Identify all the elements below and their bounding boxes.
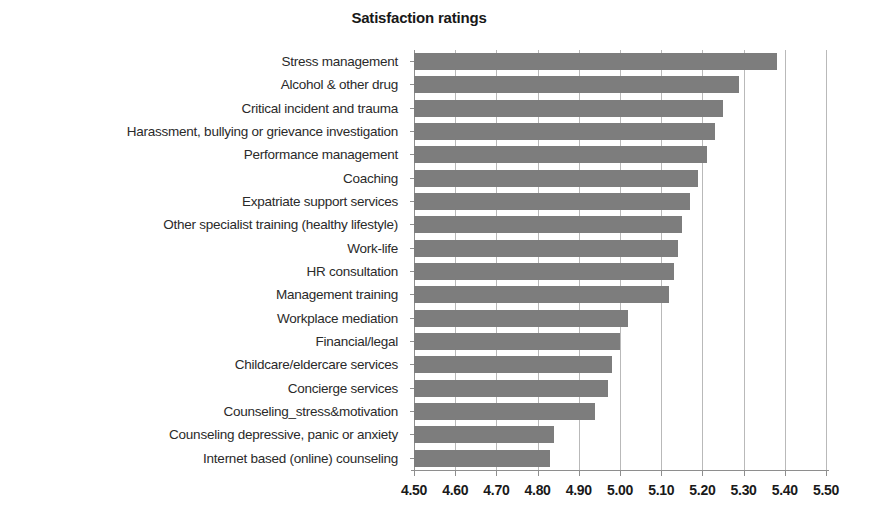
category-label: Financial/legal <box>0 330 398 353</box>
bar <box>414 263 674 280</box>
category-axis-labels: Stress managementAlcohol & other drugCri… <box>0 50 406 470</box>
bar <box>414 286 669 303</box>
bar-row <box>414 237 826 260</box>
category-label: Childcare/eldercare services <box>0 353 398 376</box>
category-label: Performance management <box>0 143 398 166</box>
bar <box>414 146 707 163</box>
axis-tick <box>826 470 827 476</box>
value-tick-label: 5.20 <box>689 482 715 498</box>
axis-tick <box>414 470 415 476</box>
bar <box>414 380 608 397</box>
bar <box>414 240 678 257</box>
category-label: Stress management <box>0 50 398 73</box>
value-tick-label: 5.10 <box>648 482 674 498</box>
bar-row <box>414 330 826 353</box>
category-label: HR consultation <box>0 260 398 283</box>
bar <box>414 100 723 117</box>
axis-tick <box>744 470 745 476</box>
value-tick-label: 4.80 <box>525 482 551 498</box>
value-tick-label: 4.50 <box>401 482 427 498</box>
bar-row <box>414 73 826 96</box>
bar-row <box>414 120 826 143</box>
axis-tick <box>620 470 621 476</box>
axis-tick <box>785 470 786 476</box>
category-label: Concierge services <box>0 377 398 400</box>
bar-row <box>414 213 826 236</box>
value-tick-label: 4.70 <box>483 482 509 498</box>
bar <box>414 333 620 350</box>
category-label: Alcohol & other drug <box>0 73 398 96</box>
bar <box>414 53 777 70</box>
bar-row <box>414 190 826 213</box>
satisfaction-ratings-chart: Satisfaction ratings Stress managementAl… <box>0 0 878 526</box>
bar-row <box>414 167 826 190</box>
axis-tick <box>538 470 539 476</box>
category-label: Expatriate support services <box>0 190 398 213</box>
category-label: Internet based (online) counseling <box>0 447 398 470</box>
bar <box>414 356 612 373</box>
bar-row <box>414 377 826 400</box>
category-label: Critical incident and trauma <box>0 97 398 120</box>
chart-title-text: Satisfaction ratings <box>351 9 486 26</box>
value-tick-label: 5.00 <box>607 482 633 498</box>
bar <box>414 310 628 327</box>
bar-row <box>414 283 826 306</box>
bar-row <box>414 423 826 446</box>
value-tick-label: 5.30 <box>731 482 757 498</box>
bar-row <box>414 447 826 470</box>
category-label: Workplace mediation <box>0 307 398 330</box>
value-tick-label: 5.40 <box>772 482 798 498</box>
value-tick-label: 4.60 <box>442 482 468 498</box>
bar <box>414 193 690 210</box>
plot-area <box>414 50 826 470</box>
bar-row <box>414 307 826 330</box>
bar-row <box>414 50 826 73</box>
axis-tick <box>496 470 497 476</box>
chart-title: Satisfaction ratings <box>0 9 878 26</box>
bar <box>414 170 698 187</box>
category-label: Other specialist training (healthy lifes… <box>0 213 398 236</box>
bar <box>414 216 682 233</box>
bar <box>414 403 595 420</box>
bar <box>414 123 715 140</box>
category-label: Harassment, bullying or grievance invest… <box>0 120 398 143</box>
bar <box>414 450 550 467</box>
bar-row <box>414 400 826 423</box>
bar-row <box>414 143 826 166</box>
bar <box>414 426 554 443</box>
axis-tick <box>702 470 703 476</box>
bar-row <box>414 353 826 376</box>
gridline <box>826 50 827 470</box>
category-label: Work-life <box>0 237 398 260</box>
bar-series <box>414 50 826 470</box>
value-tick-label: 4.90 <box>566 482 592 498</box>
axis-tick <box>455 470 456 476</box>
value-axis-tick-labels: 4.504.604.704.804.905.005.105.205.305.40… <box>0 482 878 504</box>
bar-row <box>414 97 826 120</box>
category-label: Counseling depressive, panic or anxiety <box>0 423 398 446</box>
value-tick-label: 5.50 <box>813 482 839 498</box>
bar <box>414 76 739 93</box>
category-label: Management training <box>0 283 398 306</box>
category-label: Coaching <box>0 167 398 190</box>
axis-tick <box>579 470 580 476</box>
category-label: Counseling_stress&motivation <box>0 400 398 423</box>
bar-row <box>414 260 826 283</box>
axis-tick <box>661 470 662 476</box>
